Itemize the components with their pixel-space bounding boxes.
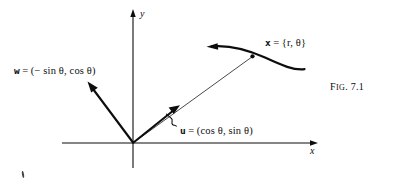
u-equals: = <box>186 125 197 136</box>
figure-caption: FIG. 7.1 <box>330 82 364 92</box>
x-close-brace: } <box>301 37 306 48</box>
theta-angle-mark <box>167 114 177 126</box>
position-point-marker <box>250 54 254 58</box>
caption-number: . 7.1 <box>345 81 364 92</box>
u-vector-arrow <box>134 105 181 142</box>
u-symbol: u <box>180 125 186 136</box>
w-vector-label: w=(− sin θ, cos θ) <box>14 61 96 77</box>
y-axis <box>130 9 135 168</box>
w-vector-arrow <box>88 82 134 143</box>
caption-smallcaps: IG <box>336 83 345 92</box>
x-symbol: x <box>265 37 271 48</box>
figure-7-1: w=(− sin θ, cos θ) u=(cos θ, sin θ) x={r… <box>0 0 393 187</box>
u-vector-label: u=(cos θ, sin θ) <box>180 121 253 137</box>
x-equals: = <box>271 37 282 48</box>
w-close-paren: ) <box>92 65 96 76</box>
position-point-label: x={r, θ} <box>265 33 306 49</box>
w-equals: = <box>20 65 31 76</box>
y-axis-label: y <box>140 9 145 19</box>
w-symbol: w <box>14 65 20 76</box>
w-value: − sin θ, cos θ <box>35 65 92 76</box>
x-axis-label: x <box>310 146 315 156</box>
figure-drawing-canvas <box>0 0 393 187</box>
x-axis <box>62 140 318 145</box>
x-value: r, θ <box>287 37 301 48</box>
u-close-paren: ) <box>249 125 253 136</box>
u-value: cos θ, sin θ <box>201 125 250 136</box>
